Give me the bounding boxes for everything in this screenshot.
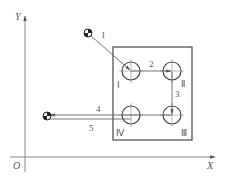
hole-label-IV: Ⅳ [116,128,125,138]
hole-label-I: Ⅰ [117,80,120,90]
hole-label-II: Ⅱ [181,79,185,89]
tool-end-icon [43,112,51,120]
segment-label-1: 1 [101,30,106,40]
origin-label: O [13,160,20,171]
path-segment-1 [90,35,130,70]
segment-label-3: 3 [175,89,180,99]
machining-path-diagram: Y X O Ⅰ Ⅱ Ⅲ Ⅳ 1 2 3 4 5 [0,0,226,180]
tool-start-icon [84,29,92,37]
segment-label-5: 5 [89,123,94,133]
hole-label-III: Ⅲ [181,128,187,138]
x-axis-label: X [206,160,214,171]
segment-label-4: 4 [96,104,101,114]
y-axis-label: Y [15,11,22,22]
segment-label-2: 2 [149,59,154,69]
